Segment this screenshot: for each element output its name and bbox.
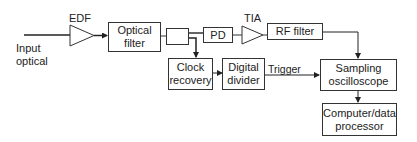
splitter-block [166, 28, 189, 45]
optical-filter-line1: Optical [117, 24, 151, 37]
edf-amplifier-icon [70, 25, 94, 46]
rf-filter-label: RF filter [276, 25, 315, 38]
clock-recovery-line2: recovery [169, 74, 211, 87]
trigger-label: Trigger [268, 63, 301, 75]
digital-divider-line1: Digital [228, 61, 259, 74]
tia-label: TIA [244, 12, 261, 24]
input-optical-label-line1: Input [16, 42, 40, 54]
sampling-oscilloscope-block: Sampling oscilloscope [320, 59, 397, 91]
clock-recovery-block: Clock recovery [168, 58, 213, 90]
computer-data-processor-block: Computer/data processor [322, 103, 397, 136]
tia-amplifier-icon [242, 26, 263, 44]
optical-filter-block: Optical filter [108, 22, 161, 52]
pd-block: PD [203, 27, 233, 43]
clock-recovery-line1: Clock [177, 61, 205, 74]
sampling-oscilloscope-line2: oscilloscope [329, 75, 389, 88]
optical-filter-line2: filter [124, 37, 145, 50]
input-optical-label-line2: optical [16, 55, 48, 67]
digital-divider-block: Digital divider [222, 58, 265, 90]
pd-label: PD [210, 29, 225, 42]
rf-to-scope-arrow [322, 32, 358, 58]
edf-label: EDF [69, 12, 91, 24]
digital-divider-line2: divider [227, 74, 259, 87]
sampling-oscilloscope-line1: Sampling [336, 62, 382, 75]
computer-line2: processor [335, 120, 383, 133]
computer-line1: Computer/data [323, 107, 396, 120]
rf-filter-block: RF filter [267, 23, 323, 40]
splitter-to-clock-arrow [188, 38, 196, 57]
